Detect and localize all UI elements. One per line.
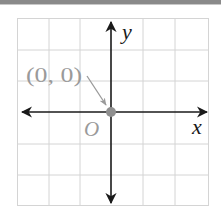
y-axis-label: y [120,19,132,44]
origin-label: O [84,117,99,141]
origin-point [106,107,116,117]
x-axis-label: x [191,114,202,139]
coordinate-plane: y x O (0, 0) [0,0,221,211]
pointer-arrow [87,76,106,105]
point-label: (0, 0) [26,63,82,87]
